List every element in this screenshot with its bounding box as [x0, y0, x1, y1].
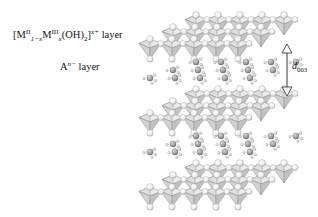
formula-m2-subscript: 1−x	[31, 35, 43, 43]
hydroxide-slab-top	[139, 12, 298, 63]
d-spacing-annotation: d003	[279, 44, 315, 96]
hydroxide-slab-bottom	[139, 160, 298, 211]
anion-charge-superscript: n−	[68, 60, 76, 68]
hydroxide-layer-formula-label: [MII1−xMIIIx(OH)2]x+ layer	[13, 30, 123, 41]
anion-layer-suffix: layer	[76, 61, 100, 72]
d-spacing-label: d003	[292, 61, 307, 71]
d-spacing-subscript: 003	[297, 66, 307, 73]
anion-layer-label: An− layer	[60, 62, 100, 73]
formula-charge-superscript: x+	[91, 28, 99, 36]
formula-layer-suffix: layer	[99, 29, 123, 40]
formula-m3-superscript: III	[51, 28, 58, 36]
interlayer-anion-region-2	[143, 132, 303, 159]
anion-element: A	[60, 61, 68, 72]
hydroxide-slab-middle	[139, 86, 298, 137]
formula-bracket-open: [M	[13, 29, 26, 40]
ldh-structure-figure: [MII1−xMIIIx(OH)2]x+ layer An− layer d00…	[0, 0, 318, 217]
formula-hydroxide: (OH)	[62, 29, 84, 40]
